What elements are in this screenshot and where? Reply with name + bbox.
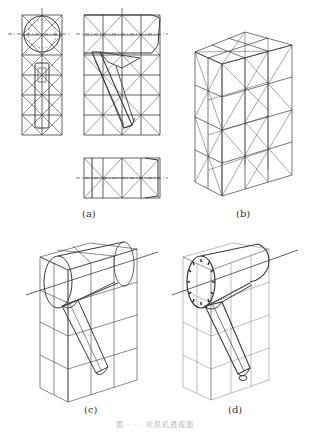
panel-c-perspective-outline — [26, 242, 158, 402]
panel-d-completed-drawing — [172, 243, 298, 400]
panel-a-label: (a) — [82, 208, 96, 219]
panel-a-top-view — [76, 158, 168, 198]
figure-caption: 图 · · · 吹风机透视图 — [0, 419, 310, 429]
panel-a-side-view — [76, 8, 168, 135]
panel-a-front-view — [8, 8, 70, 135]
figure-canvas — [0, 0, 310, 434]
panel-d-label: (d) — [228, 404, 242, 415]
panel-c-label: (c) — [84, 404, 97, 415]
panel-b-perspective-grid — [195, 32, 292, 196]
panel-b-label: (b) — [236, 208, 250, 219]
